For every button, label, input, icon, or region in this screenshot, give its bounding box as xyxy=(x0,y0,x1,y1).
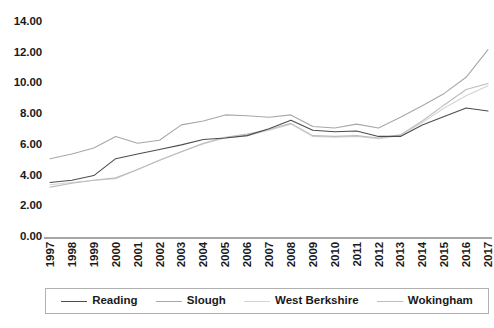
y-axis: 14.0012.0010.008.006.004.002.000.00 xyxy=(0,0,46,250)
x-axis-tick-label: 2008 xyxy=(286,242,298,267)
y-axis-tick-label: 6.00 xyxy=(20,139,42,151)
x-axis-tick-label: 2000 xyxy=(111,242,123,267)
x-axis-tick-label: 2006 xyxy=(242,242,254,267)
legend-item[interactable]: West Berkshire xyxy=(244,295,359,307)
y-axis-tick-label: 0.00 xyxy=(20,231,42,243)
x-axis-tick-label: 2014 xyxy=(417,242,429,267)
plot-area xyxy=(47,10,491,238)
y-axis-tick-label: 4.00 xyxy=(20,170,42,182)
legend-label: West Berkshire xyxy=(275,295,359,307)
line-chart: 14.0012.0010.008.006.004.002.000.00 1997… xyxy=(0,0,494,328)
legend-line-swatch xyxy=(156,301,182,302)
y-axis-tick-label: 12.00 xyxy=(14,47,42,59)
x-axis-tick-label: 2004 xyxy=(198,242,210,267)
legend-item[interactable]: Wokingham xyxy=(377,295,473,307)
legend-label: Reading xyxy=(92,295,137,307)
legend-item[interactable]: Reading xyxy=(61,295,137,307)
x-axis-tick-label: 2015 xyxy=(439,242,451,267)
x-axis-tick-label: 2012 xyxy=(374,242,386,267)
x-axis-tick-label: 1999 xyxy=(89,242,101,267)
x-axis-tick-label: 2003 xyxy=(176,242,188,267)
x-axis-tick-label: 2017 xyxy=(483,242,494,267)
x-axis-tick-label: 2002 xyxy=(155,242,167,267)
x-axis-tick-label: 2005 xyxy=(220,242,232,267)
series-line xyxy=(50,108,488,182)
series-line xyxy=(50,86,488,185)
x-axis-line xyxy=(44,237,492,239)
legend-line-swatch xyxy=(61,301,87,302)
series-line xyxy=(50,83,488,187)
chart-legend: ReadingSloughWest BerkshireWokingham xyxy=(45,288,489,314)
y-axis-tick-label: 8.00 xyxy=(20,108,42,120)
x-axis-tick-label: 2001 xyxy=(133,242,145,267)
x-axis-tick-label: 2011 xyxy=(352,242,364,267)
x-axis-tick-label: 2013 xyxy=(395,242,407,267)
plot-svg xyxy=(47,10,491,238)
series-line xyxy=(50,50,488,159)
legend-label: Wokingham xyxy=(408,295,473,307)
legend-label: Slough xyxy=(187,295,226,307)
x-axis-tick-label: 2016 xyxy=(461,242,473,267)
x-axis-tick-label: 2009 xyxy=(308,242,320,267)
y-axis-tick-label: 2.00 xyxy=(20,201,42,213)
x-axis: 1997199819992000200120022003200420052006… xyxy=(47,240,491,284)
x-axis-tick-label: 2010 xyxy=(330,242,342,267)
x-axis-tick-label: 1997 xyxy=(45,242,57,267)
x-axis-tick-label: 1998 xyxy=(67,242,79,267)
x-axis-tick-label: 2007 xyxy=(264,242,276,267)
y-axis-tick-label: 14.00 xyxy=(14,16,42,28)
y-axis-tick-label: 10.00 xyxy=(14,78,42,90)
legend-item[interactable]: Slough xyxy=(156,295,226,307)
legend-line-swatch xyxy=(244,301,270,302)
legend-line-swatch xyxy=(377,301,403,302)
bottom-text-fragment xyxy=(30,318,290,328)
